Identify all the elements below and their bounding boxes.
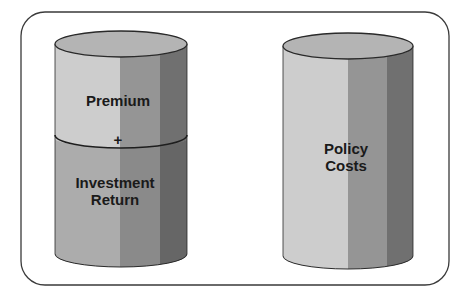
label-return: Return xyxy=(91,191,139,208)
upper-dark-stripe xyxy=(160,40,187,148)
label-policy: Policy xyxy=(324,140,369,157)
cylinder-premium-investment: Premium + Investment Return xyxy=(50,31,192,280)
plus-operator: + xyxy=(114,131,123,148)
diagram-canvas: Premium + Investment Return Policy Costs xyxy=(0,0,468,301)
label-investment: Investment xyxy=(75,174,154,191)
dark-stripe xyxy=(387,40,413,280)
cylinder-top xyxy=(283,33,413,59)
cylinder-policy-costs: Policy Costs xyxy=(283,33,413,280)
cylinder-top xyxy=(55,31,187,57)
label-premium: Premium xyxy=(86,92,150,109)
label-costs: Costs xyxy=(325,157,367,174)
